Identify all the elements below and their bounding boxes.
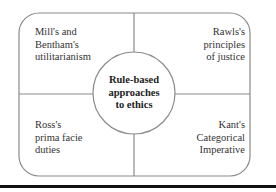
label-line: utilitarianism [35,51,91,64]
label-line: Ross's [35,119,83,132]
label-line: duties [35,144,83,157]
center-line: approaches [93,87,175,100]
label-line: Categorical [197,132,245,145]
label-line: of justice [204,51,245,64]
quadrant-top-right-label: Rawls's principles of justice [204,26,245,64]
label-line: prima facie [35,132,83,145]
bottom-rule [0,185,276,188]
quadrant-bottom-left-label: Ross's prima facie duties [35,119,83,157]
center-line: Rule-based [93,74,175,87]
quadrant-bottom-right-label: Kant's Categorical Imperative [197,119,245,157]
label-line: Kant's [197,119,245,132]
label-line: principles [204,39,245,52]
label-line: Bentham's [35,39,91,52]
label-line: Rawls's [204,26,245,39]
quadrant-top-left-label: Mill's and Bentham's utilitarianism [35,26,91,64]
center-title: Rule-based approaches to ethics [93,74,175,112]
label-line: Imperative [197,144,245,157]
center-line: to ethics [93,99,175,112]
label-line: Mill's and [35,26,91,39]
